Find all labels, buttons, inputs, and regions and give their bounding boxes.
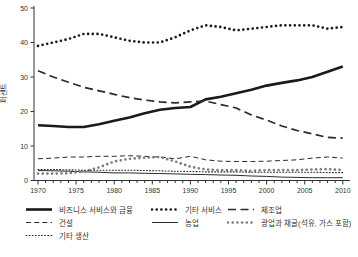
legend-item: 건설	[25, 217, 151, 228]
series-line	[38, 25, 343, 46]
x-tick-label: 1995	[221, 187, 237, 194]
y-tick-label: 50	[20, 5, 28, 12]
legend-label: 비즈니스 서비스와 금융	[59, 204, 133, 215]
legend-label: 기타 서비스	[185, 204, 222, 215]
series-line	[38, 67, 343, 127]
legend-label: 기타 생산	[59, 230, 89, 241]
y-tick-label: 0	[24, 177, 28, 184]
industry-share-line-chart-figure: 0102030405019701975198019851990199520002…	[0, 0, 358, 257]
legend-item: 제조업	[227, 204, 356, 215]
x-tick-label: 2000	[259, 187, 275, 194]
y-tick-label: 40	[20, 39, 28, 46]
legend-marker-thick-solid	[25, 205, 53, 214]
legend-marker-thin-solid	[151, 218, 179, 227]
x-tick-label: 1985	[145, 187, 161, 194]
legend-label: 제조업	[261, 204, 282, 215]
y-tick-label: 20	[20, 108, 28, 115]
legend-item: 비즈니스 서비스와 금융	[25, 204, 151, 215]
legend-marker-thin-dash	[25, 218, 53, 227]
x-tick-label: 2010	[335, 187, 351, 194]
x-tick-label: 1970	[30, 187, 46, 194]
x-tick-label: 2005	[297, 187, 313, 194]
legend-marker-bold-dash	[227, 205, 255, 214]
x-tick-label: 1975	[68, 187, 84, 194]
legend-item: 기타 생산	[25, 230, 151, 241]
legend-marker-bold-dots	[227, 218, 255, 227]
x-tick-label: 1990	[183, 187, 199, 194]
y-tick-label: 10	[20, 143, 28, 150]
legend-label: 광업과 채굴(석유, 가스 포함)	[261, 217, 351, 228]
legend-marker-fine-dots	[25, 231, 53, 240]
legend-item: 광업과 채굴(석유, 가스 포함)	[227, 217, 356, 228]
legend-label: 농업	[185, 217, 199, 228]
chart-legend: 비즈니스 서비스와 금융기타 서비스제조업건설농업광업과 채굴(석유, 가스 포…	[25, 203, 356, 242]
y-axis-label: 퍼센트	[0, 83, 8, 103]
series-line	[38, 156, 343, 162]
legend-label: 건설	[59, 217, 73, 228]
line-chart-canvas: 0102030405019701975198019851990199520002…	[0, 0, 358, 196]
y-tick-label: 30	[20, 74, 28, 81]
legend-item: 농업	[151, 217, 227, 228]
legend-item: 기타 서비스	[151, 204, 227, 215]
x-tick-label: 1980	[106, 187, 122, 194]
chart-plot-area: 0102030405019701975198019851990199520002…	[0, 0, 358, 196]
legend-marker-bold-dots	[151, 205, 179, 214]
